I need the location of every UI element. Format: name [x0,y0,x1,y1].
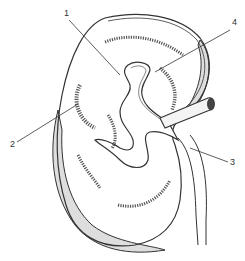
renal-vessel-opening [208,98,215,110]
leader-line-3 [190,148,228,162]
kidney-inner-outline [108,18,205,107]
leader-line-4 [155,30,230,72]
label-4: 4 [232,18,237,27]
label-1: 1 [64,9,69,18]
renal-vessel [160,98,214,128]
label-3: 3 [230,158,235,167]
renal-pelvis [95,62,178,167]
kidney-diagram [0,0,245,261]
label-2: 2 [10,140,15,149]
ureter [178,135,206,245]
leader-line-2 [17,104,78,142]
